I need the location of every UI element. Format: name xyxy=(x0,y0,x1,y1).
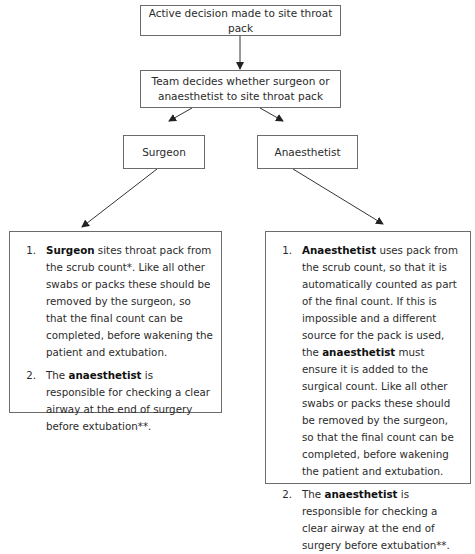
step-bold: anaesthetist xyxy=(324,488,397,500)
arrow-anaesthetist-to-steps xyxy=(293,169,383,224)
node-active-decision-label: Active decision made to site throat pack xyxy=(141,6,340,36)
step-bold: Anaesthetist xyxy=(302,244,376,256)
anaesthetist-steps-list: 1. Anaesthetist uses pack from the scrub… xyxy=(266,232,470,554)
step-number: 2. xyxy=(266,486,302,554)
step-bold: Surgeon xyxy=(46,244,95,256)
step-prefix: The xyxy=(302,488,324,500)
step-number: 1. xyxy=(266,242,302,480)
node-surgeon: Surgeon xyxy=(123,135,205,169)
node-anaesthetist: Anaesthetist xyxy=(257,135,358,169)
step-bold: anaesthetist xyxy=(68,369,141,381)
node-surgeon-label: Surgeon xyxy=(142,145,186,160)
step-text: Anaesthetist uses pack from the scrub co… xyxy=(302,242,462,480)
step-text: Surgeon sites throat pack from the scrub… xyxy=(46,242,213,361)
surgeon-steps-box: 1. Surgeon sites throat pack from the sc… xyxy=(9,231,222,413)
step-prefix: The xyxy=(46,369,68,381)
node-anaesthetist-label: Anaesthetist xyxy=(274,145,340,160)
arrow-surgeon-to-steps xyxy=(82,169,157,227)
step-rest: uses pack from the scrub count, so that … xyxy=(302,244,458,358)
arrow-team-to-anaesthetist xyxy=(260,108,283,121)
step-number: 2. xyxy=(10,367,46,435)
list-item: 1. Anaesthetist uses pack from the scrub… xyxy=(266,242,462,480)
step-text: The anaesthetist is responsible for chec… xyxy=(302,486,462,554)
node-team-decides: Team decides whether surgeon or anaesthe… xyxy=(140,70,341,108)
step-text: The anaesthetist is responsible for chec… xyxy=(46,367,213,435)
step-rest: sites throat pack from the scrub count*.… xyxy=(46,244,213,358)
step-number: 1. xyxy=(10,242,46,361)
node-active-decision: Active decision made to site throat pack xyxy=(140,5,341,36)
step-bold-2: anaesthetist xyxy=(322,346,395,358)
list-item: 2. The anaesthetist is responsible for c… xyxy=(10,367,213,435)
list-item: 2. The anaesthetist is responsible for c… xyxy=(266,486,462,554)
list-item: 1. Surgeon sites throat pack from the sc… xyxy=(10,242,213,361)
step-rest-2: must ensure it is added to the surgical … xyxy=(302,346,454,477)
node-team-decides-label: Team decides whether surgeon or anaesthe… xyxy=(147,74,334,104)
anaesthetist-steps-box: 1. Anaesthetist uses pack from the scrub… xyxy=(265,231,471,484)
arrow-team-to-surgeon xyxy=(169,108,192,121)
surgeon-steps-list: 1. Surgeon sites throat pack from the sc… xyxy=(10,232,221,435)
